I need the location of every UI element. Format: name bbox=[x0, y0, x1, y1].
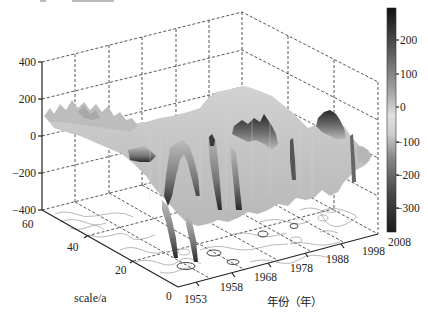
x-tick: 1988 bbox=[326, 253, 349, 265]
colorbar-tick: −100 bbox=[396, 136, 420, 148]
x-tick: 1998 bbox=[362, 245, 385, 257]
colorbar-tick: −200 bbox=[396, 169, 420, 181]
colorbar-gradient bbox=[387, 8, 396, 232]
z-tick: 0 bbox=[30, 130, 36, 142]
colorbar-tick: −300 bbox=[396, 202, 420, 214]
3d-surface-chart: 400 200 0 −200 −400 60 40 20 0 scale/a 1… bbox=[0, 0, 428, 315]
colorbar-tick: 100 bbox=[400, 68, 418, 80]
x-tick: 1958 bbox=[220, 281, 243, 293]
z-tick: −200 bbox=[12, 167, 36, 179]
x-tick: 1953 bbox=[184, 293, 207, 305]
z-tick-labels: 400 200 0 −200 −400 bbox=[12, 56, 36, 216]
wavelet-surface bbox=[44, 86, 372, 262]
z-tick: −400 bbox=[12, 204, 36, 216]
z-tick: 400 bbox=[19, 56, 37, 68]
y-tick: 20 bbox=[115, 264, 127, 276]
y-tick: 60 bbox=[22, 218, 34, 230]
cropped-caption bbox=[40, 0, 114, 2]
y-tick: 0 bbox=[166, 290, 172, 302]
colorbar: 200 100 0 −100 −200 −300 bbox=[387, 8, 420, 232]
z-tick: 200 bbox=[19, 93, 37, 105]
y-axis-label: scale/a bbox=[74, 291, 107, 305]
x-axis-label: 年份（年） bbox=[267, 295, 322, 309]
x-tick-labels: 1953 1958 1968 1978 1988 1998 2008 年份（年） bbox=[184, 236, 411, 309]
x-tick: 2008 bbox=[388, 236, 411, 248]
colorbar-tick: 200 bbox=[400, 34, 418, 46]
colorbar-tick: 0 bbox=[400, 101, 406, 113]
y-tick-labels: 60 40 20 0 scale/a bbox=[22, 218, 172, 305]
y-tick: 40 bbox=[67, 241, 79, 253]
x-tick: 1968 bbox=[254, 271, 277, 283]
x-tick: 1978 bbox=[290, 262, 313, 274]
